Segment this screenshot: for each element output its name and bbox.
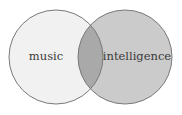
venn-diagram: music intelligence — [0, 0, 182, 115]
set-label-music: music — [29, 49, 63, 63]
set-label-intelligence: intelligence — [103, 49, 172, 63]
